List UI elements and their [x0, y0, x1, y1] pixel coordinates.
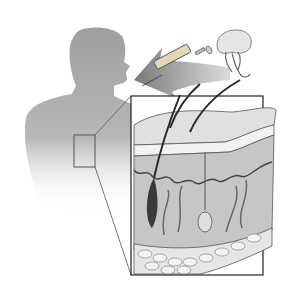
- skin-diagram: [0, 0, 294, 293]
- skin-cross-section-inset: [131, 80, 276, 275]
- human-torso-silhouette: [25, 28, 140, 212]
